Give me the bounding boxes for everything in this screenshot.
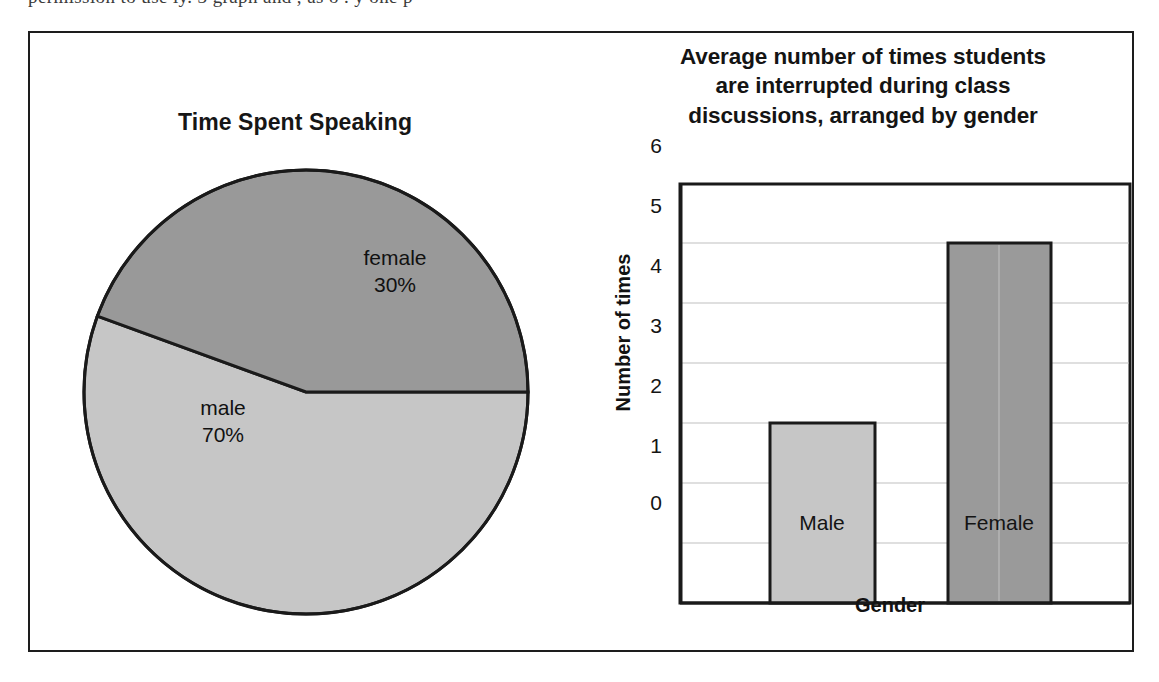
figure-border: Time Spent Speaking female 30% male 70% … [28, 31, 1134, 652]
pie-chart-panel: Time Spent Speaking female 30% male 70% [30, 33, 590, 654]
x-tick-label-female: Female [939, 511, 1059, 535]
x-tick-label-male: Male [762, 511, 882, 535]
pie-slice-label-female-percent: 30% [330, 272, 460, 299]
pie-slice-label-male: male 70% [158, 395, 288, 449]
bar-chart-title-line-3: discussions, arranged by gender [618, 101, 1108, 130]
figure-page: permission to use ly. 3 graph and , as o… [0, 0, 1159, 682]
plot-frame [680, 184, 1130, 603]
pie-chart-graphic [43, 129, 543, 629]
bar-chart-title-line-1: Average number of times students [618, 42, 1108, 71]
bar-chart-panel: Average number of times students are int… [590, 33, 1136, 654]
bar-chart-title-line-2: are interrupted during class [618, 71, 1108, 100]
bar-chart-title: Average number of times students are int… [618, 42, 1108, 130]
bar-chart-graphic [590, 133, 1136, 613]
pie-slice-label-male-percent: 70% [158, 422, 288, 449]
pie-slice-label-female: female 30% [330, 245, 460, 299]
scan-top-text-fragment: permission to use ly. 3 graph and , as o… [28, 0, 1138, 8]
pie-slice-label-male-name: male [158, 395, 288, 422]
bar-chart-x-axis-title: Gender [650, 594, 1130, 617]
pie-slice-label-female-name: female [330, 245, 460, 272]
